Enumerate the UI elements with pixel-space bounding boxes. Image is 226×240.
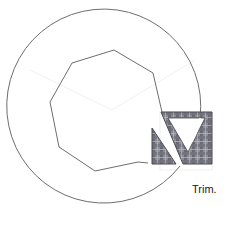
trim-caption: Trim. xyxy=(192,183,217,195)
inner-polygon xyxy=(50,50,162,171)
